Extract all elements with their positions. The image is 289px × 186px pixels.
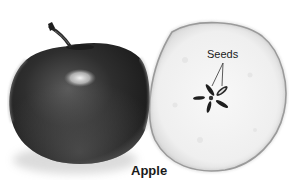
apple-highlight [64, 69, 96, 87]
whole-apple [9, 43, 149, 164]
cut-apple-half [150, 23, 286, 171]
apple-diagram: Seeds Apple [0, 0, 289, 186]
apple-caption: Apple [131, 164, 167, 177]
apple-illustration [0, 0, 289, 186]
seeds-label: Seeds [207, 49, 238, 60]
apple-stem [48, 22, 70, 46]
